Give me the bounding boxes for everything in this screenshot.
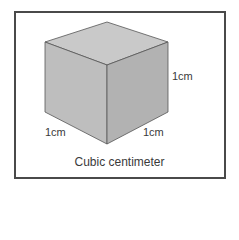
right-edge-label: 1cm — [143, 126, 164, 138]
height-label: 1cm — [172, 70, 193, 82]
left-edge-label: 1cm — [45, 126, 66, 138]
diagram-caption: Cubic centimeter — [0, 155, 239, 169]
